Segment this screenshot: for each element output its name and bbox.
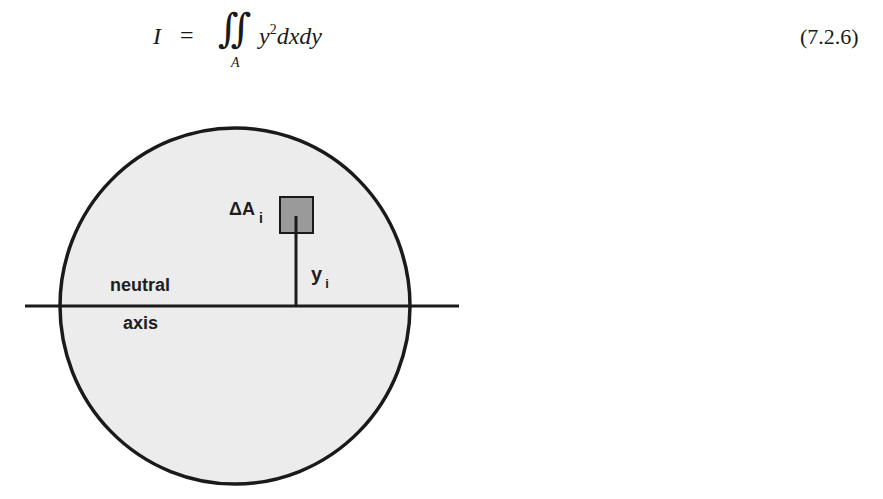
neutral-label: neutral (110, 275, 170, 296)
area-element-label: ΔAi (229, 199, 263, 220)
area-element-label-main: ΔA (229, 199, 255, 219)
area-element-label-subscript: i (259, 210, 263, 226)
distance-label: yi (311, 263, 329, 286)
distance-label-subscript: i (325, 276, 329, 291)
axis-label: axis (123, 313, 158, 334)
cross-section-figure: neutral axis ΔAi yi (0, 0, 883, 499)
distance-label-main: y (311, 263, 322, 285)
cross-section-diagram (0, 0, 883, 499)
